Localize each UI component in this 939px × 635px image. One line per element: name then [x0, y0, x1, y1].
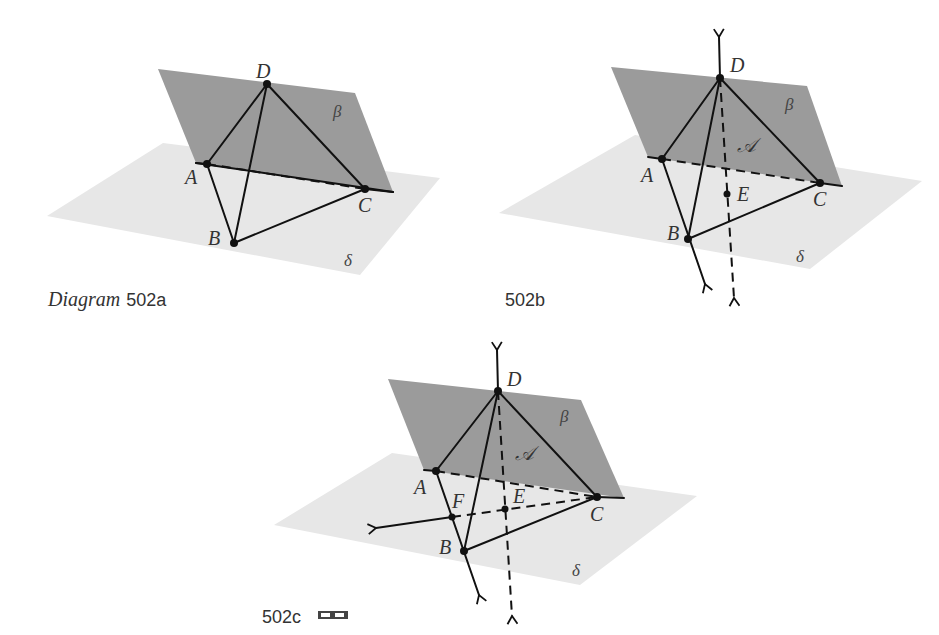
- label-d: D: [255, 60, 271, 82]
- figure-502c: D A C B E F β δ 𝒜 502c: [262, 350, 697, 627]
- label-a: A: [183, 166, 198, 188]
- point-c: [593, 493, 601, 501]
- point-a: [432, 467, 440, 475]
- label-a: A: [412, 476, 427, 498]
- point-e: [502, 506, 509, 513]
- label-c: C: [590, 503, 604, 525]
- label-delta: δ: [572, 561, 581, 580]
- diagram-canvas: D A C B β δ Diagram502a D A C B E β: [0, 0, 939, 635]
- label-beta: β: [559, 407, 569, 426]
- figure-502a: D A C B β δ Diagram502a: [47, 60, 440, 311]
- label-d: D: [729, 54, 745, 76]
- label-b: B: [208, 227, 220, 249]
- label-b: B: [439, 536, 451, 558]
- point-b: [460, 547, 468, 555]
- point-c: [361, 185, 369, 193]
- label-beta: β: [332, 102, 342, 121]
- point-b: [684, 235, 692, 243]
- caption-502a: Diagram502a: [47, 288, 167, 311]
- label-a: A: [639, 164, 654, 186]
- label-e: E: [736, 183, 749, 205]
- caption-502b: 502b: [505, 290, 545, 310]
- point-b: [230, 239, 238, 247]
- point-f: [449, 514, 456, 521]
- point-a: [203, 160, 211, 168]
- label-delta: δ: [344, 251, 353, 270]
- caption-502c: 502c: [262, 607, 301, 627]
- label-d: D: [506, 368, 522, 390]
- 3d-glasses-icon: [318, 611, 348, 619]
- label-e: E: [512, 485, 525, 507]
- point-d: [494, 387, 502, 395]
- label-c: C: [358, 194, 372, 216]
- label-c: C: [813, 188, 827, 210]
- line-d-up-arrow: [719, 37, 720, 78]
- figure-502b: D A C B E β δ 𝒜 502b: [499, 37, 922, 310]
- label-f: F: [451, 490, 465, 512]
- label-b: B: [667, 222, 679, 244]
- label-delta: δ: [796, 247, 805, 266]
- point-d: [716, 74, 724, 82]
- point-e: [724, 191, 731, 198]
- point-c: [816, 179, 824, 187]
- line-d-up-arrow: [497, 350, 498, 391]
- intersection-stub-right: [597, 497, 624, 498]
- point-a: [658, 155, 666, 163]
- label-beta: β: [784, 95, 794, 114]
